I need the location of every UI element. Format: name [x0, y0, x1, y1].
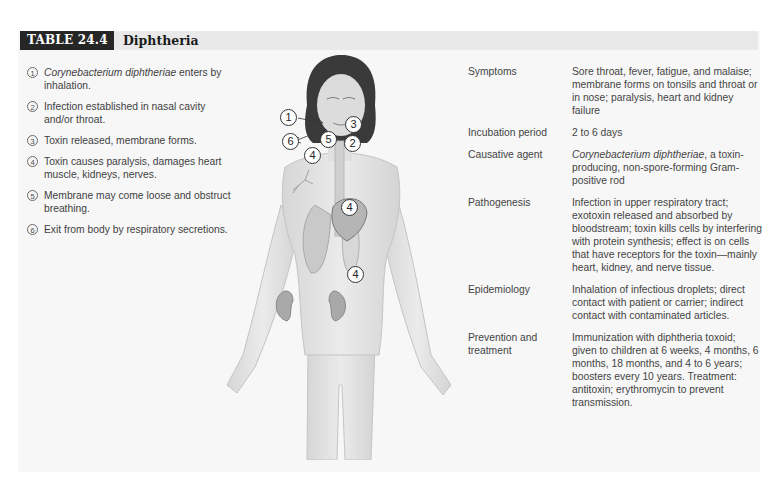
table-header: TABLE 24.4 Diphtheria	[20, 31, 758, 50]
body-illustration: 1 3 6 5 2 4 4 4	[215, 55, 465, 460]
circled-number-icon: 2	[27, 101, 38, 112]
circled-number-icon: 1	[27, 67, 38, 78]
circled-number-icon: 4	[27, 156, 38, 167]
callout-4-heart: 4	[341, 199, 358, 216]
callout-5: 5	[320, 131, 337, 148]
callout-4-nerves: 4	[304, 147, 321, 164]
fact-row-causative-agent: Causative agent Corynebacterium diphther…	[468, 148, 768, 187]
fact-label: Prevention and treatment	[468, 331, 572, 409]
fact-row-prevention: Prevention and treatment Immunization wi…	[468, 331, 768, 409]
human-body-icon	[215, 55, 465, 460]
fact-label: Epidemiology	[468, 283, 572, 322]
table-number: TABLE 24.4	[20, 31, 114, 50]
table-title: Diphtheria	[123, 31, 199, 50]
fact-value: Sore throat, fever, fatigue, and malaise…	[572, 65, 762, 117]
fact-value: Inhalation of infectious droplets; direc…	[572, 283, 762, 322]
fact-label: Pathogenesis	[468, 196, 572, 274]
fact-value: Infection in upper respiratory tract; ex…	[572, 196, 762, 274]
step-3: 3 Toxin released, membrane forms.	[27, 134, 237, 147]
callout-6: 6	[282, 133, 299, 150]
callout-4-kidney: 4	[347, 266, 364, 283]
fact-label: Causative agent	[468, 148, 572, 187]
fact-row-epidemiology: Epidemiology Inhalation of infectious dr…	[468, 283, 768, 322]
circled-number-icon: 5	[27, 190, 38, 201]
step-5: 5 Membrane may come loose and obstruct b…	[27, 189, 237, 215]
fact-value: Immunization with diphtheria toxoid; giv…	[572, 331, 762, 409]
circled-number-icon: 3	[27, 135, 38, 146]
step-4: 4 Toxin causes paralysis, damages heart …	[27, 155, 237, 181]
fact-value: Corynebacterium diphtheriae, a toxin-pro…	[572, 148, 762, 187]
callout-1: 1	[280, 109, 297, 126]
fact-row-pathogenesis: Pathogenesis Infection in upper respirat…	[468, 196, 768, 274]
infection-steps-list: 1 Corynebacterium diphtheriae enters by …	[27, 66, 237, 244]
fact-value: 2 to 6 days	[572, 126, 762, 139]
step-text: Exit from body by respiratory secretions…	[44, 224, 228, 235]
fact-row-incubation: Incubation period 2 to 6 days	[468, 126, 768, 139]
fact-label: Symptoms	[468, 65, 572, 117]
fact-value-italic: Corynebacterium diphtheriae	[572, 149, 704, 160]
callout-2: 2	[344, 135, 361, 152]
disease-facts-table: Symptoms Sore throat, fever, fatigue, an…	[468, 65, 768, 418]
fact-row-symptoms: Symptoms Sore throat, fever, fatigue, an…	[468, 65, 768, 117]
fact-label: Incubation period	[468, 126, 572, 139]
step-text: Infection established in nasal cavity an…	[44, 101, 205, 125]
callout-3: 3	[345, 116, 362, 133]
step-2: 2 Infection established in nasal cavity …	[27, 100, 237, 126]
step-text: Toxin causes paralysis, damages heart mu…	[44, 156, 221, 180]
step-text: Toxin released, membrane forms.	[44, 135, 197, 146]
step-text: Membrane may come loose and obstruct bre…	[44, 190, 231, 214]
step-6: 6 Exit from body by respiratory secretio…	[27, 223, 237, 236]
step-1: 1 Corynebacterium diphtheriae enters by …	[27, 66, 237, 92]
circled-number-icon: 6	[27, 224, 38, 235]
step-italic: Corynebacterium diphtheriae	[44, 67, 176, 78]
